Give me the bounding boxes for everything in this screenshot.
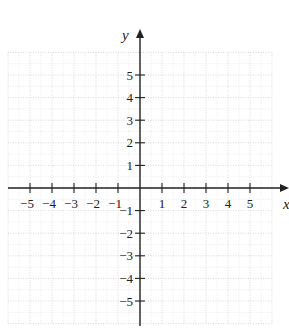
y-tick-label: 2 xyxy=(127,135,134,150)
x-tick-label: 2 xyxy=(181,196,188,211)
y-tick-label: −5 xyxy=(119,294,133,309)
x-axis-arrow-icon xyxy=(280,184,289,192)
x-tick-label: −2 xyxy=(86,196,100,211)
y-tick-label: 4 xyxy=(127,90,134,105)
y-axis-arrow-icon xyxy=(136,29,144,38)
y-tick-label: 5 xyxy=(127,68,134,83)
coordinate-plane: −5−4−3−2−11234554321−1−2−3−4−5 y x xyxy=(0,0,289,328)
axes xyxy=(8,29,289,326)
x-tick-label: 5 xyxy=(247,196,254,211)
y-tick-label: 1 xyxy=(127,158,134,173)
y-tick-label: −2 xyxy=(119,226,133,241)
x-axis-label: x xyxy=(282,196,289,212)
y-tick-label: 3 xyxy=(127,113,134,128)
x-tick-label: −4 xyxy=(42,196,56,211)
x-tick-label: −3 xyxy=(64,196,78,211)
x-tick-label: 4 xyxy=(225,196,232,211)
x-tick-label: 1 xyxy=(159,196,166,211)
y-axis-label: y xyxy=(120,27,129,43)
x-tick-label: −5 xyxy=(20,196,34,211)
x-tick-label: 3 xyxy=(203,196,210,211)
y-tick-label: −1 xyxy=(119,203,133,218)
y-tick-label: −3 xyxy=(119,248,133,263)
y-tick-label: −4 xyxy=(119,271,133,286)
